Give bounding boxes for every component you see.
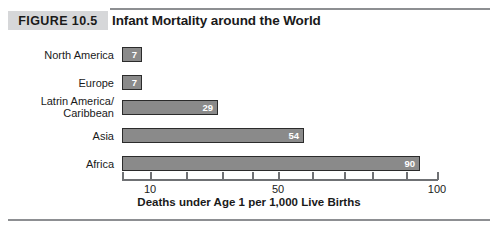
x-axis-tick [186,172,188,180]
x-axis-tick [122,172,124,180]
bar-value-label: 29 [202,101,213,116]
x-axis-tick [437,172,439,180]
category-label: Africa [0,158,114,170]
chart-plot-area: North America 7 Europe 7 Latrin America/… [0,40,498,190]
bar-row: Africa 90 [0,156,498,173]
category-label: Europe [0,77,114,89]
x-axis-tick [222,172,224,180]
x-axis-tick [344,172,346,180]
bar-row: North America 7 [0,47,498,64]
bar-europe: 7 [122,75,142,90]
x-axis-tick [150,172,152,180]
bar-value-label: 90 [404,157,415,172]
x-axis-tick-label-50: 50 [272,183,284,195]
figure-header: FIGURE 10.5 Infant Mortality around the … [0,0,498,40]
x-axis-tick [406,172,408,180]
category-label-line1: Latrin America/ [0,96,114,108]
bar-africa: 90 [122,156,420,171]
figure-number-badge: FIGURE 10.5 [8,11,108,30]
bar-row: Asia 54 [0,128,498,145]
header-divider [110,8,490,10]
bar-asia: 54 [122,128,304,143]
category-label: North America [0,49,114,61]
bar-north-america: 7 [122,47,142,62]
figure-title: Infant Mortality around the World [112,13,321,28]
x-axis-tick-label-10: 10 [144,183,156,195]
footer-divider [8,219,490,221]
x-axis-title: Deaths under Age 1 per 1,000 Live Births [0,196,498,208]
bar-value-label: 7 [132,48,137,63]
x-axis-line [122,179,438,181]
bar-latin-america-caribbean: 29 [122,100,218,115]
x-axis-tick [278,172,280,180]
x-axis-tick [252,172,254,180]
bar-row: Latrin America/ Caribbean 29 [0,100,498,117]
x-axis-tick [312,172,314,180]
x-axis-tick-label-100: 100 [428,183,446,195]
category-label: Latrin America/ Caribbean [0,96,114,119]
bar-row: Europe 7 [0,75,498,92]
x-axis-tick [372,172,374,180]
bar-value-label: 7 [132,76,137,91]
x-axis: 10 50 100 [0,172,498,190]
bar-value-label: 54 [288,129,299,144]
category-label: Asia [0,130,114,142]
category-label-line2: Caribbean [0,108,114,120]
